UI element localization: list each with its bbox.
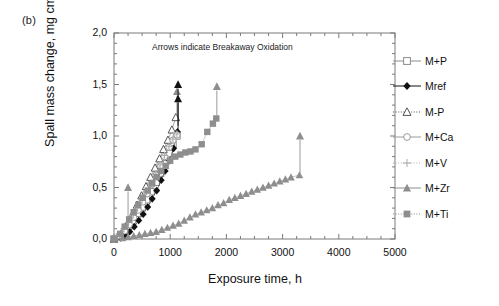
y-tick-label: 0,5 — [77, 181, 107, 193]
axis-ticks — [114, 33, 395, 239]
series-M-P — [110, 113, 179, 242]
data-point-filled-square — [192, 146, 198, 152]
legend-item-Mref[interactable]: Mref — [392, 74, 492, 100]
legend-label: M+Ti — [425, 208, 448, 220]
data-point-filled-triangle — [296, 132, 304, 140]
legend-label: M-P — [425, 106, 444, 118]
legend-marker-icon — [392, 130, 422, 144]
legend-marker-icon — [392, 181, 422, 195]
data-point-filled-triangle — [174, 95, 182, 103]
series-M+Ti — [111, 115, 220, 242]
data-point-filled-square — [117, 231, 123, 237]
legend-item-M+Zr[interactable]: M+Zr — [392, 176, 492, 202]
data-point-filled-square — [198, 141, 204, 147]
data-point-filled-square — [204, 129, 210, 135]
data-point-filled-triangle — [174, 80, 182, 88]
data-point-open-circle — [404, 134, 411, 141]
data-point-filled-square — [404, 210, 411, 217]
chart-legend: M+PMrefM-PM+CaM+VM+ZrM+Ti — [392, 48, 492, 227]
legend-item-M+P[interactable]: M+P — [392, 48, 492, 74]
legend-label: M+P — [425, 55, 447, 67]
x-tick-label: 2000 — [206, 246, 246, 258]
legend-item-M+V[interactable]: M+V — [392, 150, 492, 176]
data-point-filled-square — [145, 187, 151, 193]
data-point-filled-square — [121, 223, 127, 229]
data-point-filled-square — [139, 195, 145, 201]
data-point-plus — [403, 159, 411, 167]
data-point-filled-triangle — [124, 183, 132, 191]
legend-label: M+Ca — [425, 131, 453, 143]
x-tick-label: 1000 — [150, 246, 190, 258]
legend-marker-icon — [392, 79, 422, 93]
data-point-open-square — [404, 57, 411, 64]
data-point-filled-triangle — [296, 171, 304, 178]
x-tick-label: 4000 — [319, 246, 359, 258]
y-tick-label: 2,0 — [77, 26, 107, 38]
data-point-filled-square — [154, 174, 160, 180]
x-tick-label: 0 — [94, 246, 134, 258]
y-tick-label: 0,0 — [77, 232, 107, 244]
plot-frame — [114, 33, 395, 239]
data-point-filled-square — [135, 202, 141, 208]
legend-marker-icon — [392, 207, 422, 221]
data-point-filled-square — [130, 209, 136, 215]
legend-item-M+Ti[interactable]: M+Ti — [392, 201, 492, 227]
legend-label: Mref — [425, 80, 446, 92]
data-point-filled-square — [126, 216, 132, 222]
data-point-filled-diamond — [403, 82, 410, 90]
data-point-filled-square — [111, 236, 117, 242]
data-point-filled-triangle — [213, 82, 221, 90]
legend-marker-icon — [392, 156, 422, 170]
data-point-filled-square — [149, 180, 155, 186]
legend-label: M+V — [425, 157, 447, 169]
legend-marker-icon — [392, 54, 422, 68]
y-tick-label: 1,0 — [77, 129, 107, 141]
data-point-filled-triangle — [173, 88, 181, 96]
x-tick-label: 5000 — [375, 246, 415, 258]
legend-item-M+Ca[interactable]: M+Ca — [392, 125, 492, 151]
legend-marker-icon — [392, 105, 422, 119]
breakaway-arrows — [124, 80, 304, 235]
y-tick-label: 1,5 — [77, 78, 107, 90]
legend-label: M+Zr — [425, 182, 450, 194]
x-tick-label: 3000 — [263, 246, 303, 258]
data-point-filled-square — [213, 115, 219, 121]
legend-item-M-P[interactable]: M-P — [392, 99, 492, 125]
figure-panel: (b) Spall mass change, mg cm-2 Exposure … — [0, 0, 499, 306]
data-point-open-triangle — [168, 126, 176, 133]
